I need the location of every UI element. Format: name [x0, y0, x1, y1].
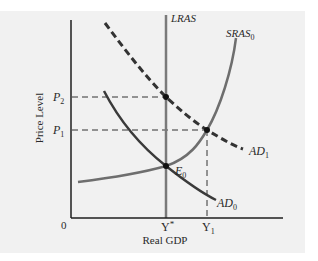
ad0-label: AD0 [216, 196, 237, 212]
x-axis-title: Real GDP [143, 234, 188, 246]
p1-tick-label: P1 [52, 123, 64, 139]
ystar-tick-label: Y* [161, 219, 175, 234]
as-ad-diagram: LRAS SRAS0 AD1 AD0 E0 P2 P1 Y* Y1 0 Real… [0, 0, 318, 261]
sras0-label: SRAS0 [226, 27, 254, 42]
ad1-label: AD1 [248, 144, 269, 160]
e0-label: E0 [174, 164, 186, 180]
sras0-curve [78, 38, 236, 182]
origin-label: 0 [61, 219, 67, 231]
e0-point [163, 163, 169, 169]
y1-tick-label: Y1 [202, 220, 215, 236]
p2-point [163, 94, 169, 100]
lras-label: LRAS [170, 12, 197, 24]
y-axis-title: Price Level [33, 93, 45, 143]
p2-tick-label: P2 [52, 90, 64, 106]
ad0-curve [104, 91, 216, 200]
p1-point [204, 127, 210, 133]
